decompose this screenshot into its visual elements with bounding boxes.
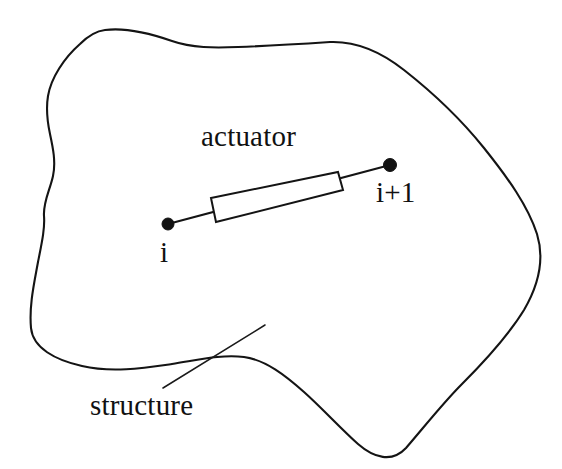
figure-root: actuator i i+1 structure <box>0 0 562 469</box>
structure-leader-line <box>163 325 265 388</box>
actuator-label: actuator <box>201 122 296 151</box>
node-i-plus-1-dot <box>384 159 397 172</box>
node-i-label: i <box>160 238 168 267</box>
actuator-body <box>211 172 343 222</box>
diagram-canvas <box>0 0 562 469</box>
structure-label: structure <box>90 391 193 420</box>
node-i-plus-1-label: i+1 <box>376 178 416 207</box>
node-i-dot <box>162 218 174 230</box>
